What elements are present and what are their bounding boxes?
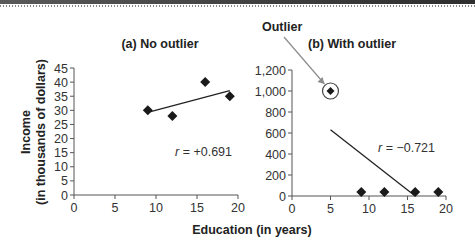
outlier-label: Outlier bbox=[262, 20, 302, 34]
outlier-arrowhead bbox=[318, 77, 325, 84]
panel-title: (a) No outlier bbox=[121, 37, 198, 51]
x-tick-label: 0 bbox=[289, 202, 296, 216]
y-tick-label: 40 bbox=[54, 76, 68, 90]
panel-b-with-outlier: (b) With outlier02004006008001,0001,2000… bbox=[255, 20, 453, 216]
y-tick-label: 5 bbox=[61, 174, 68, 188]
x-tick-label: 20 bbox=[231, 201, 245, 215]
panel-title: (b) With outlier bbox=[308, 37, 396, 51]
correlation-annotation: r = +0.691 bbox=[175, 145, 232, 159]
data-point bbox=[200, 77, 210, 87]
y-tick-label: 1,200 bbox=[255, 64, 286, 78]
y-tick-label: 20 bbox=[54, 132, 68, 146]
y-tick-label: 45 bbox=[54, 62, 68, 76]
correlation-annotation: r = −0.721 bbox=[378, 141, 435, 155]
panel-a-no-outlier: (a) No outlier05101520253035404505101520… bbox=[54, 37, 245, 215]
y-tick-label: 0 bbox=[61, 189, 68, 203]
y-tick-label: 400 bbox=[265, 148, 286, 162]
data-point bbox=[143, 105, 153, 115]
y-tick-label: 1,000 bbox=[255, 85, 286, 99]
y-tick-label: 10 bbox=[54, 160, 68, 174]
y-tick-label: 30 bbox=[54, 104, 68, 118]
x-tick-label: 15 bbox=[401, 202, 415, 216]
regression-line bbox=[331, 130, 416, 196]
chart-canvas: Income (in thousands of dollars) Educati… bbox=[0, 0, 475, 247]
y-axis-title: Income (in thousands of dollars) bbox=[19, 59, 48, 205]
y-tick-label: 800 bbox=[265, 106, 286, 120]
x-tick-label: 5 bbox=[112, 201, 119, 215]
x-tick-label: 0 bbox=[71, 201, 78, 215]
outlier-point bbox=[327, 87, 335, 95]
x-axis-title: Education (in years) bbox=[192, 223, 311, 237]
y-tick-label: 0 bbox=[279, 190, 286, 204]
r-value: = +0.691 bbox=[179, 145, 232, 159]
x-tick-label: 20 bbox=[439, 202, 453, 216]
x-tick-label: 10 bbox=[149, 201, 163, 215]
y-tick-label: 35 bbox=[54, 90, 68, 104]
data-point bbox=[225, 91, 235, 101]
r-value: = −0.721 bbox=[382, 141, 435, 155]
y-tick-label: 15 bbox=[54, 146, 68, 160]
data-point bbox=[167, 111, 177, 121]
y-tick-label: 25 bbox=[54, 118, 68, 132]
x-tick-label: 10 bbox=[362, 202, 376, 216]
y-axis-title-line1: Income bbox=[19, 110, 33, 154]
regression-line bbox=[148, 91, 230, 113]
y-axis-title-line2: (in thousands of dollars) bbox=[34, 59, 48, 205]
y-tick-label: 200 bbox=[265, 169, 286, 183]
x-tick-label: 5 bbox=[327, 202, 334, 216]
y-tick-label: 600 bbox=[265, 127, 286, 141]
x-tick-label: 15 bbox=[190, 201, 204, 215]
